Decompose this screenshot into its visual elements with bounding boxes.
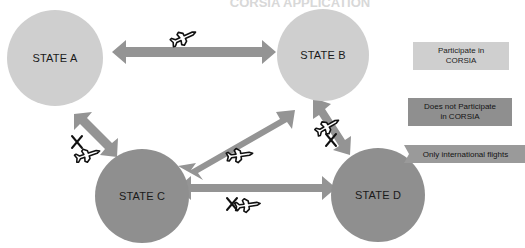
corsia-application-diagram: CORSIA APPLICATION bbox=[0, 0, 525, 248]
arrow-state-a-state-b bbox=[112, 40, 276, 64]
legend-intl-only-label: Only international flights bbox=[423, 150, 508, 159]
legend-participate-line1: Participate in bbox=[438, 46, 484, 55]
airplane-icon-a-c bbox=[74, 144, 102, 165]
node-state-c-label: STATE C bbox=[119, 190, 165, 202]
airplane-icon-c-d bbox=[234, 197, 261, 214]
legend-item-participate: Participate in CORSIA bbox=[413, 42, 509, 70]
airplane-icon-a-b bbox=[169, 26, 199, 50]
legend-not-participate-line2: in CORSIA bbox=[440, 112, 479, 121]
legend-item-not-participate: Does not Participate in CORSIA bbox=[408, 98, 512, 126]
cross-mark-b-d bbox=[326, 134, 336, 146]
node-state-b-label: STATE B bbox=[300, 49, 346, 61]
legend-item-intl-only: Only international flights bbox=[404, 145, 525, 163]
node-state-d-label: STATE D bbox=[355, 189, 401, 201]
page-title: CORSIA APPLICATION bbox=[230, 0, 370, 10]
arrow-state-c-state-b bbox=[178, 110, 295, 180]
node-group: STATE A STATE B STATE C STATE D bbox=[7, 9, 425, 243]
arrow-state-c-state-d bbox=[177, 176, 336, 200]
cross-mark-a-c bbox=[72, 136, 82, 148]
legend-participate-line2: CORSIA bbox=[446, 56, 477, 65]
node-state-a-label: STATE A bbox=[32, 52, 77, 64]
legend-not-participate-line1: Does not Participate bbox=[424, 102, 496, 111]
